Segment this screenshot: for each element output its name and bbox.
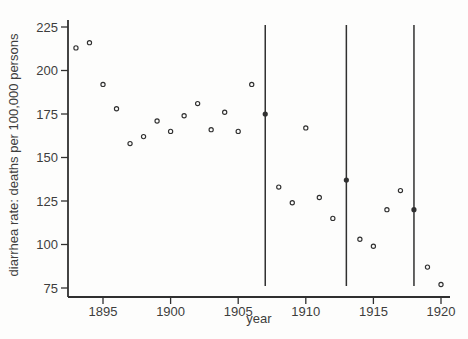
y-tick-label: 75 [44, 281, 58, 296]
data-point-open [425, 265, 429, 269]
y-axis-title: diarrhea rate: deaths per 100,000 person… [6, 5, 22, 305]
y-tick-label: 125 [36, 194, 58, 209]
y-tick-label: 100 [36, 237, 58, 252]
y-tick-label: 175 [36, 107, 58, 122]
data-point-open [371, 244, 375, 248]
data-point-open [74, 46, 78, 50]
data-point-open [114, 107, 118, 111]
data-point-filled [263, 111, 268, 116]
data-point-open [439, 282, 443, 286]
data-point-open [141, 135, 145, 139]
data-point-filled [344, 178, 349, 183]
y-tick-label: 150 [36, 150, 58, 165]
chart-figure: 7510012515017520022518951900190519101915… [0, 0, 468, 339]
data-point-open [398, 188, 402, 192]
data-point-open [155, 119, 159, 123]
data-point-open [277, 185, 281, 189]
data-point-open [101, 82, 105, 86]
data-point-open [128, 141, 132, 145]
data-point-open [87, 41, 91, 45]
data-point-open [209, 128, 213, 132]
data-point-open [236, 129, 240, 133]
data-point-open [304, 126, 308, 130]
data-point-filled [411, 207, 416, 212]
data-point-open [196, 101, 200, 105]
scatter-plot: 7510012515017520022518951900190519101915… [0, 0, 468, 339]
data-point-open [223, 110, 227, 114]
data-point-open [317, 195, 321, 199]
data-point-open [250, 82, 254, 86]
data-point-open [182, 114, 186, 118]
y-tick-label: 200 [36, 63, 58, 78]
data-point-open [358, 237, 362, 241]
data-point-open [169, 129, 173, 133]
data-point-open [385, 208, 389, 212]
data-point-open [331, 216, 335, 220]
data-point-open [290, 201, 294, 205]
x-axis-title: year [68, 311, 450, 327]
y-tick-label: 225 [36, 20, 58, 35]
